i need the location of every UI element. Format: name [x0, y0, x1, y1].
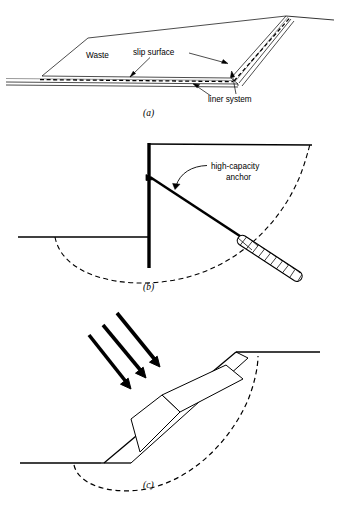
- leader-slip-surface-right: [189, 53, 228, 64]
- panel-a-drawing: Waste slip surface liner system: [0, 0, 337, 130]
- liner-slope-line-mid: [239, 19, 291, 83]
- waste-base: [42, 76, 231, 78]
- label-waste: Waste: [86, 51, 109, 60]
- label-liner-system: liner system: [208, 95, 252, 104]
- load-arrow-1: [89, 335, 131, 389]
- label-slip-surface: slip surface: [133, 48, 175, 57]
- panel-a-letter: (a): [143, 108, 154, 119]
- grout-bulb-outline: [237, 235, 302, 281]
- panel-c: (c): [0, 300, 337, 510]
- ground-surface-right: [286, 16, 334, 20]
- label-anchor-line1: high-capacity: [211, 162, 260, 171]
- slip-surface-dashed-slope: [234, 18, 290, 81]
- waste-upper-surface: [42, 16, 286, 76]
- leader-anchor: [173, 166, 207, 190]
- liner-slope-line-lower: [242, 21, 294, 86]
- figure-root: Waste slip surface liner system: [0, 0, 337, 510]
- leader-slip-surface-left: [130, 58, 150, 78]
- anchor-tendon: [150, 177, 249, 242]
- panel-b: high-capacity anchor (b): [0, 130, 337, 300]
- panel-a: Waste slip surface liner system: [0, 0, 337, 130]
- panel-b-letter: (b): [143, 282, 154, 293]
- surcharge-block-top: [162, 365, 243, 412]
- label-anchor-line2: anchor: [226, 173, 251, 182]
- waste-slope-face: [231, 16, 286, 78]
- load-arrows: [89, 313, 160, 389]
- liner-line-lower: [6, 85, 238, 87]
- leader-liner-slope: [230, 71, 236, 94]
- anchor-grout-bulb: [237, 230, 306, 284]
- panel-b-drawing: high-capacity anchor (b): [0, 130, 337, 300]
- panel-c-letter: (c): [143, 480, 154, 491]
- liner-system-slope: [236, 17, 294, 86]
- liner-line-mid: [6, 82, 238, 84]
- panel-c-drawing: (c): [0, 300, 337, 510]
- load-arrow-2: [103, 325, 146, 378]
- leader-liner-horizontal: [193, 84, 211, 96]
- failure-mass-crest-edge: [236, 352, 248, 358]
- retained-ground-surface: [148, 144, 312, 145]
- load-arrow-3: [117, 313, 160, 367]
